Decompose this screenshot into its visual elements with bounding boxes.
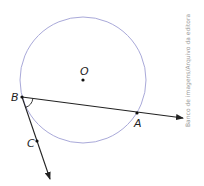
point-o xyxy=(81,78,84,81)
label-c: C xyxy=(27,137,35,150)
ray-ba xyxy=(22,97,183,118)
point-a xyxy=(135,111,138,114)
label-b: B xyxy=(11,91,19,104)
geometry-figure: O B A C Banco de imagens/Arquivo da edit… xyxy=(0,0,204,186)
angle-marker xyxy=(26,98,33,107)
point-c xyxy=(35,139,38,142)
point-b xyxy=(20,95,23,98)
image-credit: Banco de imagens/Arquivo da editora xyxy=(184,14,192,127)
label-a: A xyxy=(133,117,142,130)
label-o: O xyxy=(80,65,89,78)
